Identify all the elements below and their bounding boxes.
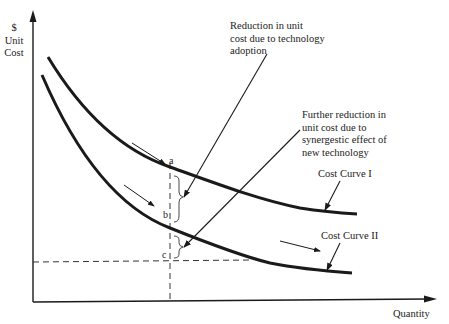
annotation-line: cost due to technology bbox=[230, 33, 325, 46]
y-axis-label-unit: Unit bbox=[3, 35, 25, 48]
brace-ab bbox=[174, 176, 183, 222]
cost-curve-2-label: Cost Curve II bbox=[321, 230, 378, 243]
annotation-synergy: Further reduction in unit cost due to sy… bbox=[302, 109, 387, 159]
direction-arrow-curve-1 bbox=[132, 143, 165, 164]
point-a-label: a bbox=[169, 156, 173, 166]
leader-arrow-curve-2 bbox=[327, 243, 340, 270]
cost-curve-1-label: Cost Curve I bbox=[318, 168, 372, 181]
x-axis-arrow-icon bbox=[424, 296, 437, 303]
annotation-line: unit cost due to bbox=[302, 122, 387, 135]
annotation-line: synergestic effect of bbox=[302, 134, 387, 147]
x-axis bbox=[33, 296, 437, 303]
annotation-line: adoption bbox=[230, 45, 325, 58]
brace-bc bbox=[174, 236, 183, 258]
x-axis-label: Quantity bbox=[393, 308, 430, 321]
leader-arrow-curve-1 bbox=[325, 181, 340, 210]
annotation-line: Reduction in unit bbox=[230, 20, 325, 33]
y-axis-label: $ Unit Cost bbox=[3, 22, 25, 60]
direction-arrow-curve-2-lower bbox=[280, 241, 320, 251]
leader-arrow-synergy bbox=[184, 130, 300, 247]
horizontal-dashed-line bbox=[33, 260, 252, 262]
point-b-label: b bbox=[163, 210, 168, 220]
y-axis-arrow-icon bbox=[30, 10, 37, 22]
y-axis-label-cost: Cost bbox=[3, 47, 25, 60]
y-axis-label-currency: $ bbox=[3, 22, 25, 35]
point-c-label: c bbox=[162, 250, 166, 260]
annotation-technology-adoption: Reduction in unit cost due to technology… bbox=[230, 20, 325, 58]
annotation-line: new technology bbox=[302, 147, 387, 160]
y-axis bbox=[30, 10, 37, 302]
annotation-line: Further reduction in bbox=[302, 109, 387, 122]
diagram-canvas bbox=[0, 0, 449, 324]
